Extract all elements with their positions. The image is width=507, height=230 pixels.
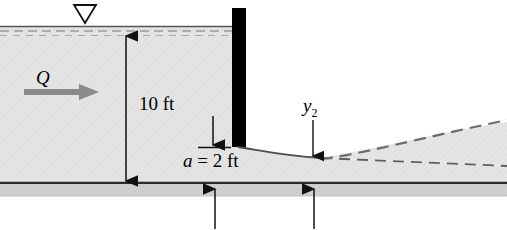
water-surface-triangle-icon	[74, 5, 96, 23]
gate-opening-value: = 2 ft	[193, 150, 239, 171]
downstream-depth-label: y2	[303, 96, 317, 119]
discharge-label: Q	[36, 68, 50, 87]
channel-bed	[0, 183, 507, 196]
gate-opening-label: a = 2 ft	[183, 151, 239, 170]
sluice-gate	[232, 8, 246, 147]
upstream-depth-label: 10 ft	[139, 94, 174, 113]
downstream-depth-subscript: 2	[311, 106, 317, 120]
sluice-gate-figure: 10 ft a = 2 ft Q y2	[0, 0, 507, 230]
gate-opening-symbol: a	[183, 150, 193, 171]
downstream-water-body	[238, 122, 507, 183]
figure-canvas	[0, 0, 507, 230]
